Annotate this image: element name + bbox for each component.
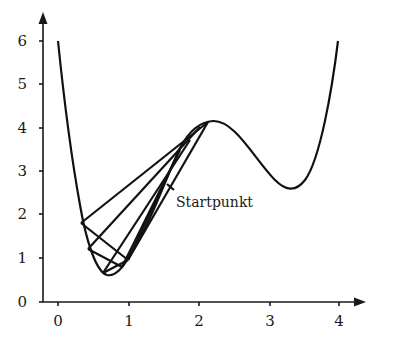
y-tick-label: 4 xyxy=(17,119,27,137)
x-tick-label: 3 xyxy=(265,312,275,330)
x-ticks: 0 1 2 3 4 xyxy=(53,302,344,330)
x-axis-arrow-icon xyxy=(354,298,366,307)
y-tick-label: 1 xyxy=(17,249,27,267)
y-ticks: 0 1 2 3 4 5 6 xyxy=(17,32,43,311)
axes xyxy=(39,12,367,307)
x-tick-label: 4 xyxy=(334,312,344,330)
chart: 0 1 2 3 4 0 1 2 3 4 5 6 Startpunk xyxy=(0,0,393,344)
y-tick-label: 2 xyxy=(17,205,27,223)
x-tick-label: 1 xyxy=(124,312,134,330)
y-tick-label: 5 xyxy=(17,75,27,93)
y-tick-label: 0 xyxy=(17,293,27,311)
y-tick-label: 3 xyxy=(17,162,27,180)
x-tick-label: 0 xyxy=(53,312,63,330)
function-curve xyxy=(58,41,338,275)
y-axis-arrow-icon xyxy=(39,12,48,24)
y-tick-label: 6 xyxy=(17,32,27,50)
startpoint-label: Startpunkt xyxy=(176,194,253,210)
x-tick-label: 2 xyxy=(194,312,204,330)
